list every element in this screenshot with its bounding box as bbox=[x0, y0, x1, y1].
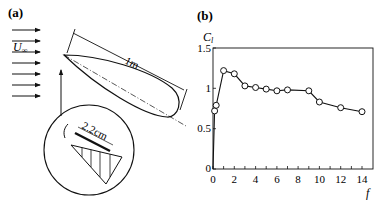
detail-inset: 2.2cm bbox=[44, 105, 134, 195]
series-line bbox=[213, 71, 362, 169]
svg-text:4: 4 bbox=[253, 173, 259, 185]
data-point-marker bbox=[263, 86, 269, 92]
freestream-velocity-label: U∞ bbox=[13, 40, 28, 55]
svg-text:8: 8 bbox=[295, 173, 301, 185]
chord-dimension bbox=[67, 29, 187, 110]
svg-text:0.5: 0.5 bbox=[197, 122, 211, 134]
svg-text:1: 1 bbox=[206, 82, 212, 94]
data-point-marker bbox=[242, 83, 248, 89]
data-point-marker bbox=[213, 102, 219, 108]
data-point-marker bbox=[231, 71, 237, 77]
plot-frame bbox=[213, 48, 373, 169]
svg-text:14: 14 bbox=[357, 173, 369, 185]
panel-a: (a) U∞ 1m 2.2 bbox=[8, 5, 187, 195]
figure: (a) U∞ 1m 2.2 bbox=[0, 0, 384, 206]
x-tick-labels: 0 2 4 6 8 10 12 14 bbox=[210, 173, 368, 185]
panel-a-label: (a) bbox=[8, 5, 23, 20]
airfoil-shape bbox=[64, 55, 179, 117]
data-point-marker bbox=[306, 88, 312, 94]
svg-text:12: 12 bbox=[335, 173, 346, 185]
chord-length-label: 1m bbox=[123, 54, 141, 71]
data-point-marker bbox=[359, 109, 365, 115]
data-point-marker bbox=[221, 68, 227, 74]
data-point-marker bbox=[253, 85, 259, 91]
svg-text:2: 2 bbox=[232, 173, 238, 185]
panel-b: (b) Cl 1.5 1 0.5 0 bbox=[197, 8, 373, 200]
data-series bbox=[212, 68, 365, 169]
svg-text:10: 10 bbox=[314, 173, 326, 185]
panel-b-label: (b) bbox=[197, 8, 213, 23]
data-point-marker bbox=[212, 108, 218, 114]
y-tick-labels: 1.5 1 0.5 0 bbox=[197, 42, 211, 174]
x-axis-title: f bbox=[366, 186, 371, 200]
data-point-marker bbox=[316, 99, 322, 105]
data-point-marker bbox=[274, 88, 280, 94]
svg-text:6: 6 bbox=[274, 173, 280, 185]
data-point-marker bbox=[285, 87, 291, 93]
svg-text:0: 0 bbox=[210, 173, 216, 185]
data-point-marker bbox=[338, 105, 344, 111]
svg-text:1.5: 1.5 bbox=[197, 42, 211, 54]
